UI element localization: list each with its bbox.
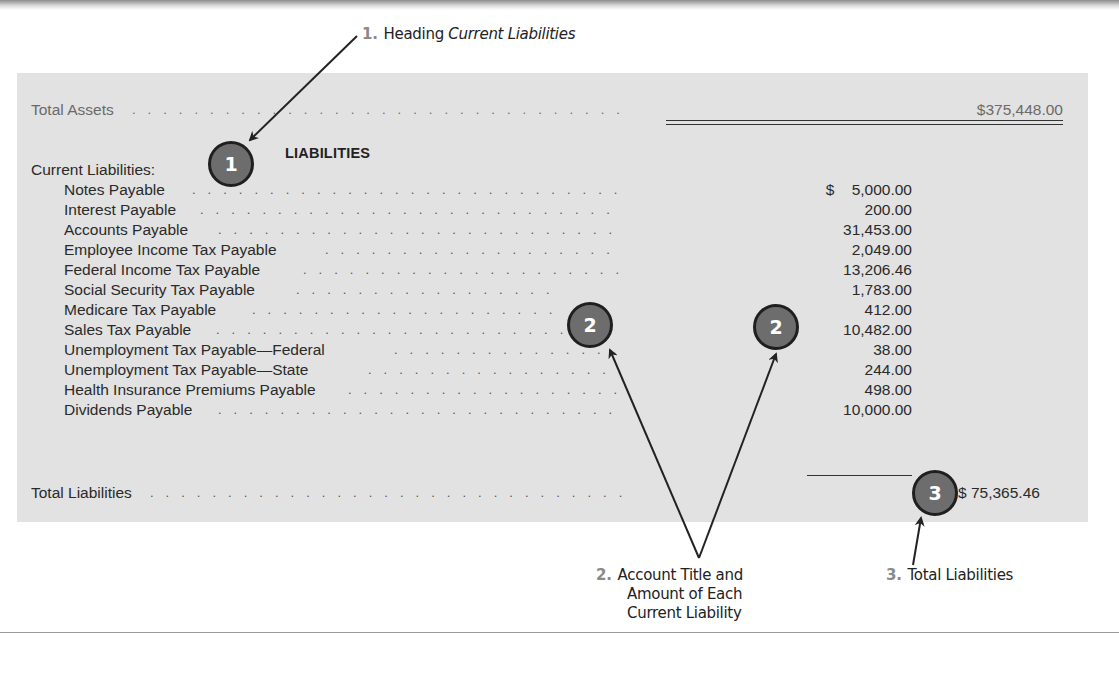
total-liabilities-amount: $ 75,365.46	[958, 484, 1063, 502]
line-item-label: Accounts Payable	[64, 221, 188, 239]
bottom-divider	[0, 632, 1119, 633]
subtotal-underline	[807, 475, 912, 476]
line-item-label: Interest Payable	[64, 201, 176, 219]
line-item-label: Social Security Tax Payable	[64, 281, 255, 299]
callout-2-line2: Amount of Each	[596, 585, 743, 604]
line-item: Federal Income Tax Payable . . . . . . .…	[0, 261, 1119, 279]
line-item-amount: 498.00	[760, 381, 912, 399]
leader-dots: . . . . . . . . . . . . . . . . . . . . …	[296, 281, 561, 299]
line-item: Accounts Payable . . . . . . . . . . . .…	[0, 221, 1119, 239]
marker-3-icon: 3	[912, 470, 958, 516]
line-item-amount: $ 5,000.00	[760, 181, 912, 199]
line-item: Social Security Tax Payable . . . . . . …	[0, 281, 1119, 299]
callout-1-number: 1.	[362, 25, 378, 43]
line-item-label: Employee Income Tax Payable	[64, 241, 277, 259]
leader-dots: . . . . . . . . . . . . . . . . . . . . …	[218, 221, 622, 239]
line-item: Notes Payable . . . . . . . . . . . . . …	[0, 181, 1119, 199]
leader-dots: . . . . . . . . . . . . . . . . . . . . …	[192, 181, 622, 199]
callout-2-number: 2.	[596, 566, 612, 584]
marker-2-icon: 2	[567, 302, 613, 348]
line-item-label: Unemployment Tax Payable—State	[64, 361, 308, 379]
top-shadow-band	[0, 0, 1119, 10]
line-item-label: Federal Income Tax Payable	[64, 261, 260, 279]
current-liabilities-heading-row: Current Liabilities:	[0, 161, 400, 179]
line-item-label: Unemployment Tax Payable—Federal	[64, 341, 325, 359]
line-item-amount: 200.00	[760, 201, 912, 219]
line-item-label: Sales Tax Payable	[64, 321, 191, 339]
total-assets-label: Total Assets	[31, 101, 114, 119]
leader-dots: . . . . . . . . . . . . . . . . . . . . …	[132, 101, 622, 119]
line-item-label: Notes Payable	[64, 181, 165, 199]
line-item: Sales Tax Payable . . . . . . . . . . . …	[0, 321, 1119, 339]
marker-1-icon: 1	[208, 141, 254, 187]
callout-3-text: Total Liabilities	[908, 566, 1014, 584]
line-item-amount: 2,049.00	[760, 241, 912, 259]
callout-1-italic: Current Liabilities	[448, 25, 575, 43]
line-item: Medicare Tax Payable . . . . . . . . . .…	[0, 301, 1119, 319]
callout-2-line3: Current Liability	[596, 604, 743, 623]
leader-dots: . . . . . . . . . . . . . . . . . . . . …	[252, 301, 562, 319]
double-underline	[666, 120, 1063, 125]
leader-dots: . . . . . . . . . . . . . . . . . . . . …	[325, 241, 622, 259]
line-item: Unemployment Tax Payable—Federal . . . .…	[0, 341, 1119, 359]
callout-3: 3.Total Liabilities	[886, 566, 1013, 585]
line-item-label: Health Insurance Premiums Payable	[64, 381, 316, 399]
line-item-amount: 10,000.00	[760, 401, 912, 419]
leader-dots: . . . . . . . . . . . . . . . . . . . . …	[216, 321, 622, 339]
marker-2-icon: 2	[753, 304, 799, 350]
line-item: Unemployment Tax Payable—State . . . . .…	[0, 361, 1119, 379]
line-item-amount: 13,206.46	[760, 261, 912, 279]
callout-1: 1.Heading Current Liabilities	[362, 25, 575, 44]
line-item-amount: 244.00	[760, 361, 912, 379]
leader-dots: . . . . . . . . . . . . . . . . . . . . …	[368, 361, 622, 379]
current-liabilities-label: Current Liabilities:	[31, 161, 155, 179]
callout-2: 2.Account Title and Amount of Each Curre…	[596, 566, 743, 623]
section-heading-liabilities: LIABILITIES	[285, 145, 370, 161]
leader-dots: . . . . . . . . . . . . . . . . . . . . …	[303, 261, 622, 279]
leader-dots: . . . . . . . . . . . . . . . . . . . . …	[150, 484, 622, 502]
line-item: Dividends Payable . . . . . . . . . . . …	[0, 401, 1119, 419]
leader-dots: . . . . . . . . . . . . . . . . . . . . …	[348, 381, 622, 399]
line-item: Health Insurance Premiums Payable . . . …	[0, 381, 1119, 399]
line-item-label: Medicare Tax Payable	[64, 301, 216, 319]
line-item: Interest Payable . . . . . . . . . . . .…	[0, 201, 1119, 219]
callout-3-number: 3.	[886, 566, 902, 584]
callout-1-text: Heading	[384, 25, 449, 43]
total-assets-amount: $375,448.00	[900, 101, 1063, 119]
total-assets-row: Total Assets . . . . . . . . . . . . . .…	[0, 101, 1119, 119]
line-item-amount: 1,783.00	[760, 281, 912, 299]
callout-2-line1: Account Title and	[618, 566, 743, 584]
leader-dots: . . . . . . . . . . . . . . . . . . . . …	[200, 201, 622, 219]
line-item-amount: 31,453.00	[760, 221, 912, 239]
line-item-label: Dividends Payable	[64, 401, 192, 419]
total-liabilities-label: Total Liabilities	[31, 484, 132, 502]
line-item: Employee Income Tax Payable . . . . . . …	[0, 241, 1119, 259]
leader-dots: . . . . . . . . . . . . . . . . . . . . …	[218, 401, 622, 419]
